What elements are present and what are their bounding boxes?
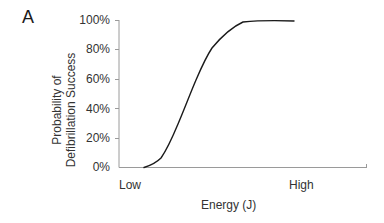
x-tick-low: Low xyxy=(119,178,141,192)
plot-area xyxy=(0,0,384,223)
y-axis-ticks xyxy=(115,21,119,139)
probability-curve xyxy=(144,21,294,168)
x-tick-high: High xyxy=(289,178,314,192)
x-axis-title: Energy (J) xyxy=(201,198,256,212)
